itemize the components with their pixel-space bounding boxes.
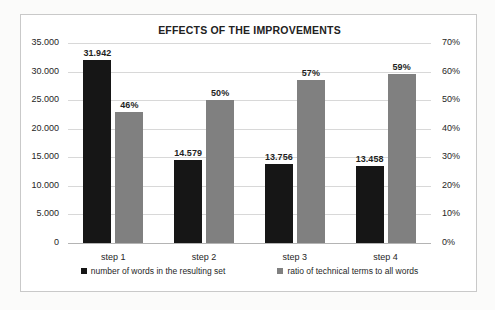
bar[interactable]: 57% — [297, 80, 325, 243]
bar-value-label: 59% — [393, 63, 411, 72]
bar-group: 31.94246%step 1 — [83, 43, 143, 243]
y-axis-left-tick: 35.000 — [31, 38, 59, 47]
legend-label: ratio of technical terms to all words — [287, 266, 418, 276]
x-axis-category-label: step 4 — [356, 252, 416, 262]
legend-swatch-icon — [81, 268, 87, 274]
y-axis-right-tick: 40% — [442, 124, 460, 133]
bar[interactable]: 59% — [388, 74, 416, 243]
bar[interactable]: 50% — [206, 100, 234, 243]
y-axis-left-tick: 30.000 — [31, 67, 59, 76]
y-axis-right-tick: 70% — [442, 38, 460, 47]
legend-swatch-icon — [277, 268, 283, 274]
chart-frame: EFFECTS OF THE IMPROVEMENTS 35.00070%30.… — [20, 14, 477, 292]
y-axis-right-tick: 60% — [442, 67, 460, 76]
x-axis-category-label: step 3 — [265, 252, 325, 262]
y-axis-left-tick: 0 — [54, 238, 59, 247]
bar-group: 13.45859%step 4 — [356, 43, 416, 243]
bar-value-label: 31.942 — [84, 49, 112, 58]
bar-value-label: 14.579 — [174, 149, 202, 158]
legend-entry[interactable]: number of words in the resulting set — [81, 266, 226, 276]
y-axis-right-tick: 10% — [442, 209, 460, 218]
y-axis-left-tick: 20.000 — [31, 124, 59, 133]
bar[interactable]: 46% — [115, 112, 143, 243]
bar[interactable]: 13.458 — [356, 166, 384, 243]
plot-area: 35.00070%30.00060%25.00050%20.00040%15.0… — [68, 43, 431, 243]
scan-page-background: EFFECTS OF THE IMPROVEMENTS 35.00070%30.… — [0, 0, 495, 310]
y-axis-left-tick: 10.000 — [31, 181, 59, 190]
y-axis-right-tick: 30% — [442, 152, 460, 161]
y-axis-right-tick: 0% — [442, 238, 455, 247]
y-axis-left-tick: 25.000 — [31, 95, 59, 104]
x-axis-category-label: step 1 — [83, 252, 143, 262]
y-axis-left-tick: 5.000 — [36, 209, 59, 218]
bar-value-label: 13.458 — [356, 155, 384, 164]
legend-label: number of words in the resulting set — [91, 266, 226, 276]
bar-group: 13.75657%step 3 — [265, 43, 325, 243]
bar-value-label: 57% — [302, 69, 320, 78]
chart-legend: number of words in the resulting setrati… — [21, 266, 478, 276]
y-axis-left-tick: 15.000 — [31, 152, 59, 161]
chart-title: EFFECTS OF THE IMPROVEMENTS — [21, 24, 478, 36]
x-axis-category-label: step 2 — [174, 252, 234, 262]
bar[interactable]: 13.756 — [265, 164, 293, 243]
bar-value-label: 46% — [120, 101, 138, 110]
axis-baseline — [68, 243, 431, 244]
bar[interactable]: 31.942 — [83, 60, 111, 243]
bar-value-label: 50% — [211, 89, 229, 98]
bar-group: 14.57950%step 2 — [174, 43, 234, 243]
legend-entry[interactable]: ratio of technical terms to all words — [277, 266, 418, 276]
y-axis-right-tick: 50% — [442, 95, 460, 104]
bar[interactable]: 14.579 — [174, 160, 202, 243]
bar-value-label: 13.756 — [265, 153, 293, 162]
y-axis-right-tick: 20% — [442, 181, 460, 190]
